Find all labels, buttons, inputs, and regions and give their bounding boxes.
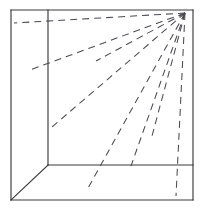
room-perspective-diagram — [0, 0, 204, 216]
figure-container — [0, 0, 204, 216]
diagram-background — [0, 0, 204, 216]
